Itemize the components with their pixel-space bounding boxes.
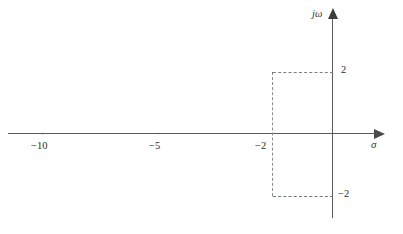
tick-label-neg2-real: −2 bbox=[255, 140, 266, 151]
pole-marker bbox=[42, 134, 43, 135]
j-omega-axis-arrow-icon bbox=[328, 8, 338, 19]
sigma-axis-line bbox=[8, 133, 376, 134]
pole-zero-plot: σ jω −10 −5 −2 2 bbox=[0, 0, 403, 234]
j-omega-axis-label: jω bbox=[312, 8, 322, 19]
pole-marker bbox=[272, 72, 273, 73]
pole-marker bbox=[272, 196, 273, 197]
tick-label-pos2-imag: 2 bbox=[341, 64, 346, 75]
tick-label-neg10: −10 bbox=[31, 140, 47, 151]
lower-horizontal-guide-line bbox=[273, 196, 333, 197]
tick-label-neg5: −5 bbox=[149, 140, 160, 151]
sigma-axis-arrow-icon bbox=[374, 129, 385, 139]
sigma-axis-label: σ bbox=[371, 138, 376, 150]
zero-marker bbox=[158, 134, 159, 135]
vertical-guide-line bbox=[272, 72, 273, 196]
upper-horizontal-guide-line bbox=[273, 72, 333, 73]
tick-label-neg2-imag: −2 bbox=[338, 188, 349, 199]
j-omega-axis-line bbox=[332, 14, 333, 218]
